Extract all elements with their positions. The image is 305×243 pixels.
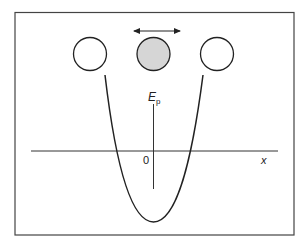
origin-label: 0 xyxy=(143,154,149,166)
right-atom xyxy=(201,38,234,71)
central-atom xyxy=(137,38,170,71)
left-atom xyxy=(74,38,107,71)
potential-well-diagram xyxy=(0,0,305,243)
y-axis-label: Ep xyxy=(148,90,160,106)
x-axis-label: x xyxy=(261,154,267,166)
